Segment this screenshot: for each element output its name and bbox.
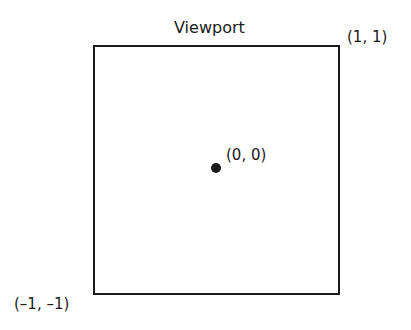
bottom-left-corner-label: (–1, –1)	[14, 297, 69, 312]
viewport-title: Viewport	[174, 20, 245, 36]
origin-point	[211, 163, 221, 173]
center-label: (0, 0)	[226, 148, 266, 163]
top-right-corner-label: (1, 1)	[347, 30, 387, 45]
